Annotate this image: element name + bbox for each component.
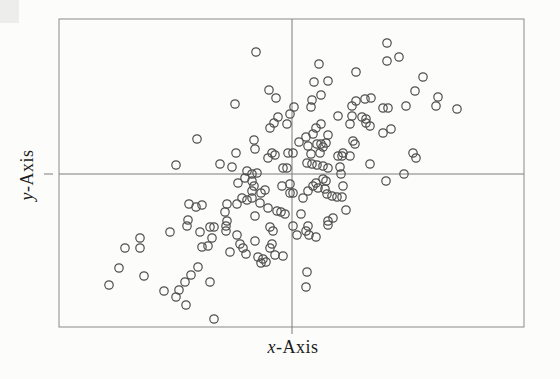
data-point	[352, 68, 360, 76]
data-point	[216, 160, 224, 168]
x-axis-label-rest: -Axis	[276, 337, 319, 357]
data-point	[221, 208, 229, 216]
data-point	[223, 200, 231, 208]
x-axis-variable: x	[268, 337, 277, 357]
data-point	[297, 210, 305, 218]
data-point	[299, 194, 307, 202]
data-point	[206, 278, 214, 286]
data-point	[303, 268, 311, 276]
data-point	[383, 57, 391, 65]
data-point	[304, 222, 312, 230]
data-point	[289, 149, 297, 157]
data-point	[160, 287, 168, 295]
y-axis-label: y-Axis	[17, 150, 38, 201]
data-point	[228, 163, 236, 171]
data-point	[387, 125, 395, 133]
data-point	[264, 204, 272, 212]
data-point	[324, 164, 332, 172]
data-point	[366, 160, 374, 168]
data-point	[233, 200, 241, 208]
data-point	[182, 301, 190, 309]
data-point	[251, 212, 259, 220]
data-point	[278, 182, 286, 190]
data-point	[250, 182, 258, 190]
data-point	[234, 179, 242, 187]
data-point	[252, 48, 260, 56]
data-point	[222, 227, 230, 235]
data-point	[295, 138, 303, 146]
data-point	[342, 206, 350, 214]
data-point	[183, 222, 191, 230]
data-point	[334, 112, 342, 120]
data-point	[210, 315, 218, 323]
x-axis-label: x-Axis	[268, 337, 319, 358]
data-point	[253, 169, 261, 177]
data-point	[233, 231, 241, 239]
data-point	[302, 283, 310, 291]
data-point	[265, 86, 273, 94]
data-point	[317, 91, 325, 99]
data-point	[453, 105, 461, 113]
data-point	[196, 228, 204, 236]
scatter-plot	[0, 0, 560, 379]
data-point	[250, 136, 258, 144]
data-point	[395, 53, 403, 61]
data-point	[379, 129, 387, 137]
data-point	[105, 281, 113, 289]
data-point	[208, 234, 216, 242]
data-point	[304, 142, 312, 150]
data-point	[279, 252, 287, 260]
data-point	[293, 231, 301, 239]
data-point	[346, 152, 354, 160]
data-point	[284, 149, 292, 157]
data-point	[193, 135, 201, 143]
data-point	[286, 180, 294, 188]
data-point	[194, 263, 202, 271]
data-point	[121, 244, 129, 252]
data-point	[338, 193, 346, 201]
data-point	[136, 234, 144, 242]
data-point	[333, 193, 341, 201]
data-point	[379, 104, 387, 112]
data-point	[222, 222, 230, 230]
data-point	[383, 39, 391, 47]
data-point	[434, 93, 442, 101]
data-point	[187, 271, 195, 279]
data-point	[346, 120, 354, 128]
data-point	[140, 272, 148, 280]
data-point	[271, 251, 279, 259]
data-point	[256, 199, 264, 207]
data-point	[384, 104, 392, 112]
data-point	[315, 60, 323, 68]
data-point	[283, 120, 291, 128]
data-point	[243, 196, 251, 204]
data-point	[319, 162, 327, 170]
data-point	[136, 244, 144, 252]
data-point	[115, 264, 123, 272]
data-point	[367, 94, 375, 102]
y-axis-label-rest: -Axis	[17, 150, 37, 193]
data-point	[172, 293, 180, 301]
data-point	[324, 131, 332, 139]
y-axis-variable: y	[17, 192, 37, 201]
data-point	[251, 145, 259, 153]
data-point	[402, 102, 410, 110]
data-point	[251, 237, 259, 245]
data-point	[289, 222, 297, 230]
data-point	[226, 248, 234, 256]
data-point	[204, 242, 212, 250]
data-point	[432, 102, 440, 110]
data-point	[172, 161, 180, 169]
figure-container: y-Axis x-Axis	[0, 0, 560, 379]
data-point	[181, 278, 189, 286]
data-points	[105, 39, 461, 323]
data-point	[411, 87, 419, 95]
data-point	[323, 190, 331, 198]
data-point	[419, 73, 427, 81]
data-point	[348, 112, 356, 120]
data-point	[310, 78, 318, 86]
data-point	[382, 177, 390, 185]
data-point	[274, 113, 282, 121]
data-point	[339, 182, 347, 190]
data-point	[290, 103, 298, 111]
